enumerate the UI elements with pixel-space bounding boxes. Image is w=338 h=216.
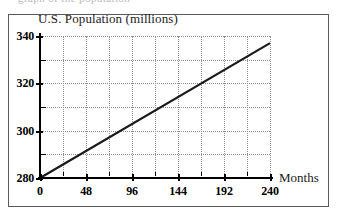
data-line-svg bbox=[40, 36, 270, 178]
y-tick-label: 280 bbox=[17, 171, 34, 186]
y-tick-label: 300 bbox=[17, 124, 34, 139]
x-tick-major bbox=[224, 174, 226, 181]
x-tick-label: 192 bbox=[215, 184, 232, 199]
y-tick-major bbox=[36, 83, 43, 85]
x-tick-minor bbox=[155, 172, 156, 176]
chart-title: U.S. Population (millions) bbox=[38, 11, 178, 26]
plot-area bbox=[40, 36, 270, 178]
y-tick-minor bbox=[41, 154, 46, 155]
x-tick-major bbox=[270, 174, 272, 181]
x-tick-major bbox=[40, 174, 42, 181]
x-tick-minor bbox=[201, 172, 202, 176]
x-tick-label: 240 bbox=[261, 184, 278, 199]
x-tick-minor bbox=[63, 172, 64, 176]
y-tick-label: 340 bbox=[17, 29, 34, 44]
y-tick-major bbox=[36, 131, 43, 133]
y-tick-label: 320 bbox=[17, 76, 34, 91]
x-tick-major bbox=[178, 174, 180, 181]
x-tick-label: 0 bbox=[37, 184, 43, 199]
y-tick-major bbox=[36, 36, 43, 38]
gridline-vertical bbox=[270, 36, 271, 178]
x-tick-label: 144 bbox=[169, 184, 186, 199]
chart-screenshot: graph of the population U.S. Population … bbox=[0, 0, 338, 216]
scan-artifact-text: graph of the population bbox=[18, 0, 258, 5]
x-tick-minor bbox=[109, 172, 110, 176]
population-trend-line bbox=[40, 43, 270, 178]
x-tick-major bbox=[86, 174, 88, 181]
x-tick-major bbox=[132, 174, 134, 181]
y-tick-minor bbox=[41, 60, 46, 61]
x-tick-label: 48 bbox=[80, 184, 92, 199]
x-tick-minor bbox=[247, 172, 248, 176]
y-tick-minor bbox=[41, 107, 46, 108]
y-axis-tick-labels: 280300320340 bbox=[0, 0, 34, 216]
x-axis-line bbox=[38, 177, 273, 179]
x-axis-title: Months bbox=[279, 170, 319, 186]
x-tick-label: 96 bbox=[126, 184, 138, 199]
